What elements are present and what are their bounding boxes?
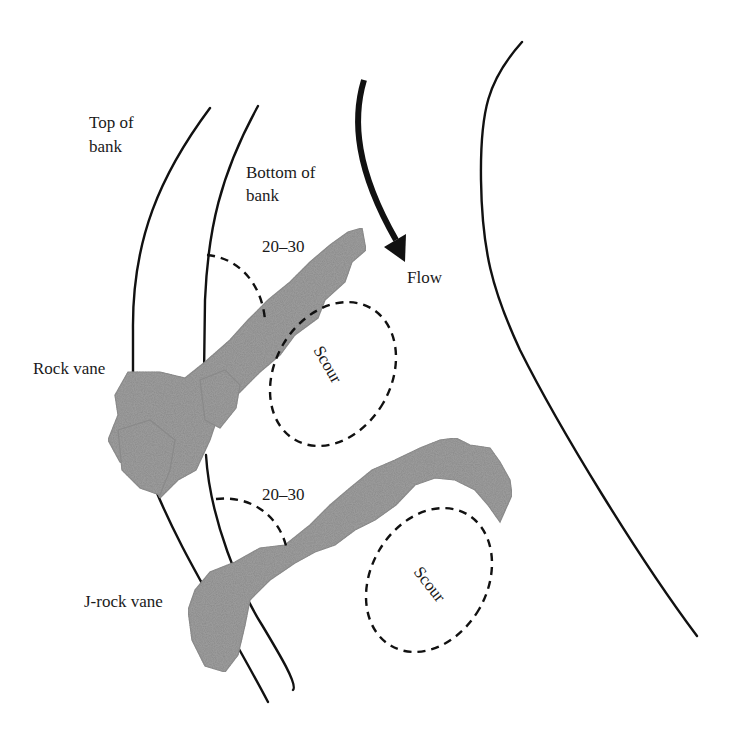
angle-arc-upper bbox=[207, 255, 265, 320]
angle-label-lower: 20–30 bbox=[262, 485, 305, 504]
flow-arrow-icon bbox=[358, 80, 396, 240]
bottom-of-bank-label-line1: Bottom of bbox=[246, 163, 316, 182]
bottom-of-bank-label-line2: bank bbox=[246, 186, 280, 205]
scour-label-upper: Scour bbox=[310, 343, 346, 387]
rock-vane-diagram: Top of bank Bottom of bank 20–30 Flow Ro… bbox=[0, 0, 734, 736]
opposite-bank-line bbox=[481, 42, 697, 636]
top-of-bank-label-line2: bank bbox=[89, 137, 123, 156]
flow-label: Flow bbox=[407, 268, 443, 287]
angle-arc-lower bbox=[216, 498, 287, 550]
angle-label-upper: 20–30 bbox=[262, 237, 305, 256]
j-rock-vane bbox=[188, 438, 512, 672]
j-rock-vane-label: J-rock vane bbox=[84, 592, 163, 611]
top-of-bank-label-line1: Top of bbox=[89, 113, 134, 132]
rock-vane-label: Rock vane bbox=[33, 359, 105, 378]
scour-label-lower: Scour bbox=[410, 563, 450, 606]
